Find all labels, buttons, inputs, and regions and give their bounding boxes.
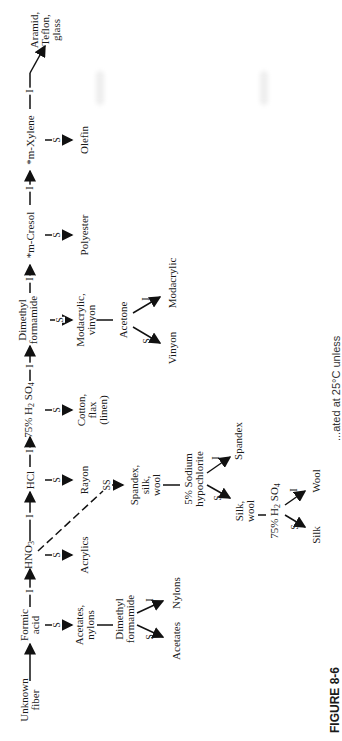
node-dimethyl-formamide-2: Dimethyl formamide: [114, 595, 136, 643]
node-text: 75% H: [22, 407, 34, 438]
edge-label-insoluble: I: [211, 456, 221, 459]
node-hno3: HNO3: [23, 541, 37, 569]
edge-label-insoluble: I: [141, 297, 151, 300]
edge-label-insoluble: I: [25, 447, 35, 454]
edge-label-insoluble: I: [289, 488, 299, 491]
edge-label-soluble: S: [145, 634, 155, 640]
edge-label-slightly-soluble: SS: [102, 479, 112, 490]
edge-label-soluble: S: [52, 137, 62, 143]
edge-label-insoluble: I: [145, 598, 155, 601]
node-text: Acrylics: [78, 536, 90, 573]
edge-label-insoluble: I: [25, 184, 35, 191]
node-text: *m-Xylene: [24, 115, 36, 164]
figure-label: FIGURE 8-6: [328, 667, 342, 733]
node-modacrylic-vinyon: Modacrylic, vinyon: [75, 293, 97, 346]
node-text: nylons: [85, 605, 96, 646]
node-text: Spandex: [232, 422, 244, 460]
node-text: (linen): [98, 394, 109, 427]
node-m-cresol: *m-Cresol: [25, 212, 36, 258]
figure-caption: ...ated at 25°C unless: [330, 336, 342, 441]
node-text: wool: [151, 465, 162, 506]
node-silk: Silk: [311, 526, 322, 544]
edge-label-soluble: S: [290, 524, 300, 530]
edge-label-soluble: S: [52, 407, 62, 413]
edge-label-insoluble: I: [25, 87, 35, 94]
scan-artifact: [260, 71, 268, 105]
node-h2so4: 75% H2 SO4: [23, 382, 37, 438]
node-text: Acetates: [170, 622, 182, 660]
node-text: hypochlorite: [194, 451, 205, 507]
edge-label-soluble: S: [55, 317, 65, 323]
subscript: 3: [27, 541, 36, 545]
node-text: Olefin: [78, 126, 90, 154]
subscript: 4: [27, 382, 36, 386]
scan-artifact: [96, 71, 104, 105]
node-rayon: Rayon: [79, 466, 90, 495]
node-silk-wool: Silk, wool: [234, 500, 256, 522]
node-text: SO: [22, 386, 34, 403]
node-formic-acid: Formic acid: [19, 609, 41, 641]
node-unknown-fiber: Unknown fiber: [19, 678, 41, 721]
node-acetone: Acetone: [118, 302, 129, 339]
node-olefin: Olefin: [79, 126, 90, 154]
node-text: Rayon: [78, 466, 90, 495]
node-spandex-silk-wool: Spandex, silk, wool: [129, 465, 162, 506]
node-polyester: Polyester: [79, 215, 90, 256]
node-text: Wool: [310, 469, 322, 493]
edge-label-soluble: S: [52, 477, 62, 483]
node-text: fiber: [30, 678, 41, 721]
node-h2so4-2: 75% H2 SO4: [269, 483, 283, 539]
edge-label-insoluble: I: [25, 512, 35, 519]
node-text: *m-Cresol: [24, 212, 36, 258]
subscript: 2: [273, 504, 282, 508]
node-text: Acetone: [117, 302, 129, 339]
node-spandex: Spandex: [233, 422, 244, 460]
edge-label-soluble: S: [52, 622, 62, 628]
node-nylons: Nylons: [171, 577, 182, 609]
subscript: 4: [273, 483, 282, 487]
node-text: wool: [245, 500, 256, 522]
node-text: HNO: [22, 545, 34, 569]
node-modacrylic: Modacrylic: [167, 258, 178, 309]
node-sodium-hypochlorite: 5% Sodium hypochlorite: [183, 451, 205, 507]
node-text: Vinyon: [166, 332, 178, 364]
edge-label-soluble: S: [213, 495, 223, 501]
node-text: vinyon: [86, 293, 97, 346]
node-text: Polyester: [78, 215, 90, 256]
node-text: Nylons: [170, 577, 182, 609]
node-wool: Wool: [311, 469, 322, 493]
node-text: formamide: [28, 296, 39, 344]
edge-label-insoluble: I: [25, 587, 35, 594]
node-m-xylene: *m-Xylene: [25, 115, 36, 164]
node-cotton-flax-linen: Cotton, flax (linen): [76, 394, 109, 427]
node-vinyon: Vinyon: [167, 332, 178, 364]
node-text: HCl: [24, 471, 36, 489]
edge-label-insoluble: I: [25, 362, 35, 369]
edge-label-soluble: S: [52, 232, 62, 238]
node-text: 75% H: [268, 508, 280, 539]
node-hcl: HCl: [25, 471, 36, 489]
node-acetates-nylons: Acetates, nylons: [74, 605, 96, 646]
node-text: Modacrylic: [166, 258, 178, 309]
node-text: acid: [30, 609, 41, 641]
edge-label-soluble: S: [142, 338, 152, 344]
subscript: 2: [27, 403, 36, 407]
node-text: SO: [268, 487, 280, 504]
node-acrylics: Acrylics: [79, 536, 90, 573]
edge-label-soluble: S: [52, 552, 62, 558]
node-text: glass: [51, 12, 62, 48]
edge-label-insoluble: I: [25, 275, 35, 282]
node-dimethyl-formamide: Dimethyl formamide: [17, 296, 39, 344]
node-acetates: Acetates: [171, 622, 182, 660]
node-text: Silk: [310, 526, 322, 544]
node-text: formamide: [125, 595, 136, 643]
node-aramid-teflon-glass: Aramid, Teflon, glass: [29, 12, 62, 48]
